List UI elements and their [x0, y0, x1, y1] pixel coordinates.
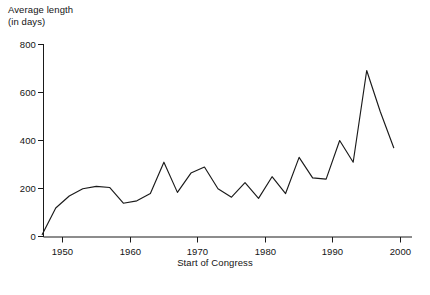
x-tick-label-1970: 1970: [178, 246, 218, 257]
x-tick-label-1950: 1950: [43, 246, 83, 257]
x-axis-title: Start of Congress: [0, 257, 430, 269]
y-tick-label-800: 800: [8, 39, 36, 50]
y-axis: [38, 44, 44, 237]
x-tick-label-1990: 1990: [313, 246, 353, 257]
x-tick-label-2000: 2000: [381, 246, 421, 257]
line-chart: Average length (in days) 800 600 400 200…: [0, 0, 430, 295]
y-tick-label-400: 400: [8, 135, 36, 146]
x-axis: [44, 237, 413, 243]
y-tick-label-200: 200: [8, 183, 36, 194]
y-tick-label-600: 600: [8, 87, 36, 98]
y-tick-label-0: 0: [8, 231, 36, 242]
x-tick-label-1980: 1980: [246, 246, 286, 257]
x-tick-label-1960: 1960: [111, 246, 151, 257]
data-series-line: [42, 71, 394, 235]
